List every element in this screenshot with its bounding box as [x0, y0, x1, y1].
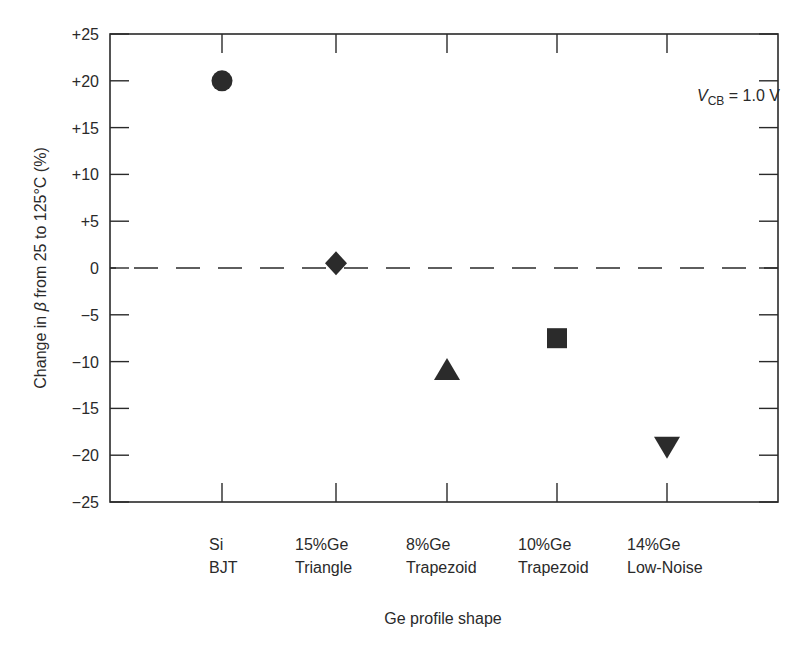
triangle-up-marker: [434, 358, 460, 380]
triangle-down-marker: [654, 437, 680, 459]
y-axis-title-symbol: β: [32, 302, 49, 312]
category-label-line2: Trapezoid: [518, 559, 589, 576]
category-label-line1: 15%Ge: [295, 536, 348, 553]
category-label-line1: 10%Ge: [518, 536, 571, 553]
y-tick-label: −20: [72, 447, 99, 464]
y-tick-label: +10: [72, 166, 99, 183]
category-label-line1: 8%Ge: [406, 536, 451, 553]
y-axis-title: Change in β from 25 to 125°C (%): [32, 147, 49, 388]
vcb-annotation: VCB = 1.0 V: [697, 87, 780, 108]
data-markers: [212, 70, 681, 459]
y-tick-label: +20: [72, 73, 99, 90]
y-tick-label: −15: [72, 400, 99, 417]
category-label-line1: 14%Ge: [627, 536, 680, 553]
category-label-line2: Low-Noise: [627, 559, 703, 576]
category-label-line2: Triangle: [295, 559, 352, 576]
category-labels: SiBJT15%GeTriangle8%GeTrapezoid10%GeTrap…: [209, 536, 703, 576]
category-label-line1: Si: [209, 536, 223, 553]
square-marker: [547, 328, 567, 348]
circle-marker: [212, 70, 233, 91]
y-tick-label: −5: [81, 307, 99, 324]
y-tick-label: −10: [72, 354, 99, 371]
category-label-line2: Trapezoid: [406, 559, 477, 576]
annotation-subscript: CB: [708, 94, 725, 108]
y-tick-label: +25: [72, 26, 99, 43]
diamond-marker: [325, 251, 347, 275]
chart: +25+20+15+10+50−5−10−15−20−25 SiBJT15%Ge…: [0, 0, 797, 646]
y-axis-title-post: from 25 to 125°C (%): [32, 147, 49, 302]
y-tick-label: +15: [72, 120, 99, 137]
annotation-value: = 1.0 V: [724, 87, 780, 104]
x-axis-title: Ge profile shape: [384, 610, 502, 627]
y-tick-label: +5: [81, 213, 99, 230]
category-label-line2: BJT: [209, 559, 238, 576]
y-tick-label: −25: [72, 494, 99, 511]
y-tick-label: 0: [90, 260, 99, 277]
y-axis-title-pre: Change in: [32, 311, 49, 388]
